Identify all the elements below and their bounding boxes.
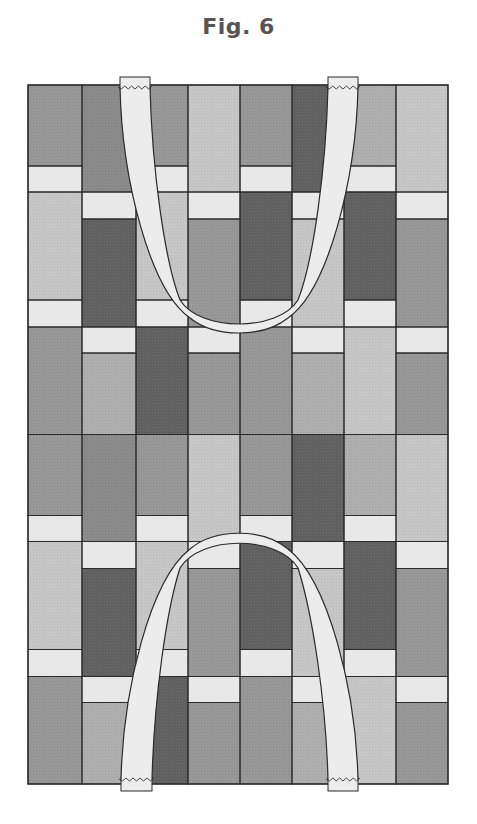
- sashing-strip: [396, 327, 448, 353]
- sashing-strip: [28, 166, 82, 192]
- sashing-strip: [82, 677, 136, 703]
- sashing-strip: [28, 650, 82, 677]
- sashing-strip: [82, 542, 136, 569]
- sashing-strip: [396, 542, 448, 569]
- sashing-strip: [396, 677, 448, 703]
- sashing-strip: [240, 650, 292, 677]
- sashing-strip: [188, 192, 240, 219]
- sashing-strip: [396, 192, 448, 219]
- sashing-strip: [82, 327, 136, 353]
- sashing-strip: [240, 166, 292, 192]
- sashing-strip: [188, 677, 240, 703]
- sashing-strip: [136, 516, 188, 542]
- quilt-bag-diagram: [0, 0, 477, 824]
- sashing-strip: [344, 516, 396, 542]
- sashing-strip: [82, 192, 136, 219]
- sashing-strip: [28, 516, 82, 542]
- sashing-strip: [344, 650, 396, 677]
- sashing-strip: [344, 166, 396, 192]
- sashing-strip: [292, 327, 344, 353]
- sashing-strip: [28, 300, 82, 327]
- sashing-strip: [344, 300, 396, 327]
